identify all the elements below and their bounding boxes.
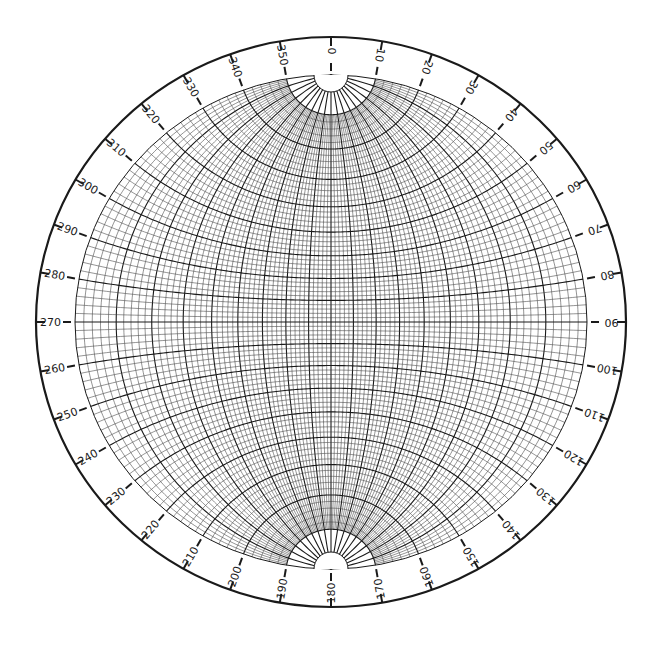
azimuth-inner-tick <box>530 156 536 161</box>
azimuth-label: 270 <box>40 316 61 329</box>
azimuth-inner-tick <box>284 569 285 577</box>
azimuth-label: 50 <box>536 138 555 157</box>
azimuth-label: 60 <box>565 177 584 195</box>
azimuth-inner-tick <box>79 408 87 411</box>
azimuth-label: 240 <box>76 447 101 469</box>
azimuth-label: 200 <box>225 565 244 589</box>
azimuth-inner-tick <box>498 514 503 520</box>
azimuth-inner-tick <box>99 193 106 197</box>
azimuth-inner-tick <box>67 366 75 367</box>
azimuth-inner-tick <box>461 98 465 105</box>
azimuth-inner-tick <box>587 366 595 367</box>
azimuth-inner-tick <box>376 67 377 75</box>
azimuth-inner-tick <box>530 483 536 488</box>
azimuth-inner-tick <box>99 448 106 452</box>
azimuth-label: 90 <box>605 316 619 329</box>
azimuth-label: 170 <box>371 577 387 600</box>
azimuth-inner-tick <box>376 569 377 577</box>
azimuth-inner-tick <box>575 408 583 411</box>
azimuth-inner-tick <box>556 448 563 452</box>
azimuth-inner-tick <box>197 539 201 546</box>
azimuth-label: 100 <box>596 361 619 377</box>
azimuth-inner-tick <box>575 233 583 236</box>
azimuth-label: 250 <box>55 405 79 424</box>
azimuth-label: 80 <box>599 267 615 282</box>
azimuth-label: 260 <box>43 361 66 377</box>
azimuth-label: 20 <box>418 59 435 77</box>
azimuth-label: 210 <box>180 544 202 569</box>
azimuth-inner-tick <box>197 98 201 105</box>
azimuth-inner-tick <box>126 156 132 161</box>
azimuth-label: 0 <box>325 48 338 55</box>
azimuth-label: 280 <box>43 267 66 283</box>
azimuth-label: 190 <box>274 577 290 600</box>
azimuth-label: 330 <box>180 75 202 100</box>
azimuth-label: 310 <box>104 136 128 159</box>
azimuth-label: 340 <box>225 55 244 79</box>
azimuth-label: 180 <box>325 583 338 604</box>
wulff-grid <box>75 45 587 599</box>
azimuth-label: 120 <box>562 447 587 469</box>
azimuth-label: 10 <box>372 47 387 63</box>
azimuth-inner-tick <box>159 124 164 130</box>
azimuth-label: 290 <box>55 220 79 239</box>
azimuth-label: 70 <box>586 221 604 238</box>
stereonet: 0102030405060708090100110120130140150160… <box>0 0 653 645</box>
azimuth-inner-tick <box>239 79 242 87</box>
azimuth-inner-tick <box>420 79 423 87</box>
azimuth-inner-tick <box>126 483 132 488</box>
azimuth-label: 30 <box>462 78 480 97</box>
azimuth-inner-tick <box>461 539 465 546</box>
azimuth-inner-tick <box>556 193 563 197</box>
azimuth-inner-tick <box>239 558 242 566</box>
azimuth-label: 150 <box>460 544 482 569</box>
azimuth-inner-tick <box>159 514 164 520</box>
azimuth-label: 300 <box>76 176 101 198</box>
azimuth-label: 110 <box>582 405 606 424</box>
azimuth-label: 160 <box>417 565 436 589</box>
azimuth-label: 350 <box>274 44 290 67</box>
azimuth-inner-tick <box>79 233 87 236</box>
azimuth-label: 130 <box>534 484 558 507</box>
azimuth-inner-tick <box>587 277 595 278</box>
azimuth-inner-tick <box>67 277 75 278</box>
azimuth-inner-tick <box>284 67 285 75</box>
azimuth-inner-tick <box>420 558 423 566</box>
azimuth-label: 230 <box>104 484 128 507</box>
azimuth-inner-tick <box>498 124 503 130</box>
